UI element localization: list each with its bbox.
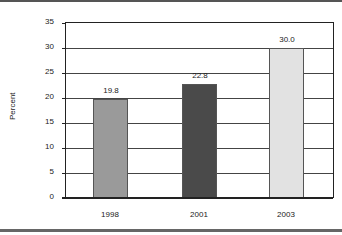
bar-2001 (182, 84, 217, 198)
bottom-rule (0, 229, 342, 232)
y-tick-label: 10 (24, 143, 54, 151)
y-tick-label: 0 (24, 193, 54, 201)
y-tick-mark (62, 23, 66, 24)
y-tick-mark (62, 48, 66, 49)
y-tick-mark (62, 98, 66, 99)
y-tick-label: 15 (24, 118, 54, 126)
bar-2003 (269, 48, 304, 198)
x-tick-label: 2001 (174, 210, 224, 219)
x-tick-label: 1998 (85, 210, 135, 219)
y-tick-label: 5 (24, 168, 54, 176)
y-tick-label: 25 (24, 68, 54, 76)
bar-value-label: 30.0 (262, 35, 312, 44)
y-axis-title: Percent (8, 92, 17, 120)
y-tick-mark (62, 73, 66, 74)
y-tick-label: 35 (24, 18, 54, 26)
bar-1998 (93, 99, 128, 198)
y-tick-mark (62, 173, 66, 174)
x-axis-line (62, 197, 333, 199)
x-tick-label: 2003 (261, 210, 311, 219)
bar-value-label: 22.8 (175, 71, 225, 80)
plot-area: 19.822.830.0 (65, 22, 334, 198)
y-tick-mark (62, 148, 66, 149)
bar-value-label: 19.8 (86, 86, 136, 95)
y-tick-label: 30 (24, 43, 54, 51)
y-tick-label: 20 (24, 93, 54, 101)
top-rule (0, 0, 342, 2)
y-tick-mark (62, 123, 66, 124)
